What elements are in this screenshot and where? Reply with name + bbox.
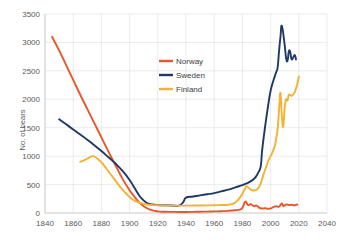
y-axis-title-label: No. of bears [18,109,27,150]
legend-label-finland: Finland [176,85,202,94]
y-tick-label: 3000 [22,38,40,47]
y-tick-label: 0 [36,209,41,218]
legend-label-norway: Norway [176,57,203,66]
y-tick-label: 2500 [22,67,40,76]
legend-label-sweden: Sweden [176,71,205,80]
y-tick-label: 3500 [22,10,40,19]
x-tick-label: 2020 [290,219,308,228]
x-tick-label: 2000 [262,219,280,228]
y-tick-label: 1000 [22,152,40,161]
x-tick-label: 1860 [64,219,82,228]
x-tick-label: 1880 [93,219,111,228]
bear-population-chart: 0500100015002000250030003500 18401860188… [0,0,349,246]
x-tick-label: 1960 [205,219,223,228]
x-tick-label: 1980 [234,219,252,228]
y-tick-label: 2000 [22,95,40,104]
x-tick-label: 2040 [318,219,336,228]
x-tick-label: 1900 [121,219,139,228]
x-tick-label: 1940 [177,219,195,228]
chart-canvas: 0500100015002000250030003500 18401860188… [0,0,349,246]
x-axis-tick-labels: 1840186018801900192019401960198020002020… [36,219,336,228]
y-tick-label: 500 [27,181,41,190]
x-tick-label: 1840 [36,219,54,228]
x-tick-label: 1920 [149,219,167,228]
y-axis-title: No. of bears [18,109,27,150]
